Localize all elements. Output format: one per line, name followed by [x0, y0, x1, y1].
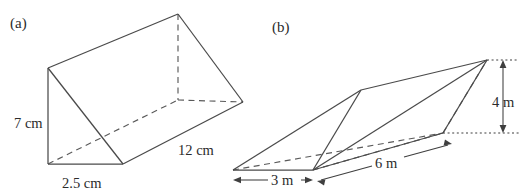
figure-page: 7 cm 2.5 cm 12 cm (a): [0, 0, 526, 195]
arrow-head-b-base-left: [233, 177, 241, 183]
dimension-label-b-base: 3 m: [271, 172, 294, 188]
dimension-label-b-height: 4 m: [492, 94, 515, 110]
dimension-label-a-height: 7 cm: [14, 115, 43, 131]
dimension-label-a-base: 2.5 cm: [62, 175, 102, 191]
arrow-head-b-length-left: [317, 179, 325, 185]
dimension-label-b-length: 6 m: [375, 155, 398, 171]
arrow-head-b-base-right: [305, 177, 313, 183]
dimension-line-b-length-right: [404, 145, 448, 157]
geometry-figures-canvas: 7 cm 2.5 cm 12 cm (a): [0, 0, 526, 195]
arrow-head-b-height-down: [500, 125, 507, 133]
dimension-label-a-length: 12 cm: [178, 142, 215, 158]
arrow-head-b-height-up: [500, 60, 507, 68]
part-label-a: (a): [10, 15, 27, 32]
figure-a-group: 7 cm 2.5 cm 12 cm (a): [10, 14, 243, 191]
part-label-b: (b): [272, 19, 290, 36]
dimension-line-b-length-left: [321, 166, 372, 180]
figure-b-group: 4 m 3 m 6 m (b): [233, 19, 519, 188]
arrow-head-b-length-right: [444, 140, 452, 146]
